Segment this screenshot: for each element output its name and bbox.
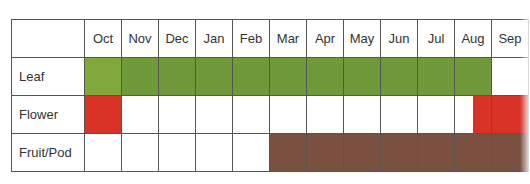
active-fill bbox=[344, 134, 380, 171]
row-label: Fruit/Pod bbox=[12, 134, 85, 172]
phenology-table: OctNovDecJanFebMarAprMayJunJulAugSep Lea… bbox=[11, 19, 529, 172]
active-fill bbox=[455, 58, 491, 95]
active-fill bbox=[307, 134, 343, 171]
cell-mar bbox=[270, 96, 307, 134]
cell-dec bbox=[159, 58, 196, 96]
month-header-jan: Jan bbox=[196, 20, 233, 58]
cell-feb bbox=[233, 58, 270, 96]
active-fill bbox=[381, 58, 417, 95]
cell-apr bbox=[307, 58, 344, 96]
cell-nov bbox=[122, 58, 159, 96]
cell-jun bbox=[381, 58, 418, 96]
month-header-apr: Apr bbox=[307, 20, 344, 58]
cell-jan bbox=[196, 134, 233, 172]
active-fill bbox=[159, 58, 195, 95]
active-fill bbox=[196, 58, 232, 95]
cell-jun bbox=[381, 134, 418, 172]
month-header-oct: Oct bbox=[85, 20, 122, 58]
active-fill bbox=[85, 58, 121, 95]
cell-jan bbox=[196, 96, 233, 134]
cell-mar bbox=[270, 58, 307, 96]
corner-cell bbox=[12, 20, 85, 58]
month-header-may: May bbox=[344, 20, 381, 58]
active-fill bbox=[270, 134, 306, 171]
active-fill bbox=[418, 134, 454, 171]
cell-dec bbox=[159, 134, 196, 172]
cell-may bbox=[344, 96, 381, 134]
month-header-mar: Mar bbox=[270, 20, 307, 58]
cell-mar bbox=[270, 134, 307, 172]
cell-feb bbox=[233, 134, 270, 172]
cell-apr bbox=[307, 96, 344, 134]
active-fill bbox=[307, 58, 343, 95]
month-header-dec: Dec bbox=[159, 20, 196, 58]
row-flower: Flower bbox=[12, 96, 529, 134]
cell-oct bbox=[85, 96, 122, 134]
cell-may bbox=[344, 58, 381, 96]
month-header-jul: Jul bbox=[418, 20, 455, 58]
active-fill bbox=[270, 58, 306, 95]
active-fill bbox=[85, 96, 121, 133]
edge-fade bbox=[520, 0, 530, 184]
cell-jul bbox=[418, 58, 455, 96]
active-fill bbox=[233, 58, 269, 95]
row-leaf: Leaf bbox=[12, 58, 529, 96]
active-fill bbox=[122, 58, 158, 95]
row-fruit-pod: Fruit/Pod bbox=[12, 134, 529, 172]
cell-may bbox=[344, 134, 381, 172]
month-header-aug: Aug bbox=[455, 20, 492, 58]
cell-oct bbox=[85, 58, 122, 96]
cell-aug bbox=[455, 58, 492, 96]
cell-nov bbox=[122, 96, 159, 134]
active-fill bbox=[381, 134, 417, 171]
active-fill bbox=[473, 96, 491, 133]
month-header-nov: Nov bbox=[122, 20, 159, 58]
cell-feb bbox=[233, 96, 270, 134]
row-label: Leaf bbox=[12, 58, 85, 96]
cell-nov bbox=[122, 134, 159, 172]
month-header-feb: Feb bbox=[233, 20, 270, 58]
cell-aug bbox=[455, 134, 492, 172]
cell-jan bbox=[196, 58, 233, 96]
cell-jul bbox=[418, 134, 455, 172]
active-fill bbox=[344, 58, 380, 95]
header-row: OctNovDecJanFebMarAprMayJunJulAugSep bbox=[12, 20, 529, 58]
cell-aug bbox=[455, 96, 492, 134]
cell-jul bbox=[418, 96, 455, 134]
cell-apr bbox=[307, 134, 344, 172]
cell-dec bbox=[159, 96, 196, 134]
cell-oct bbox=[85, 134, 122, 172]
month-header-jun: Jun bbox=[381, 20, 418, 58]
active-fill bbox=[455, 134, 491, 171]
row-label: Flower bbox=[12, 96, 85, 134]
active-fill bbox=[418, 58, 454, 95]
cell-jun bbox=[381, 96, 418, 134]
